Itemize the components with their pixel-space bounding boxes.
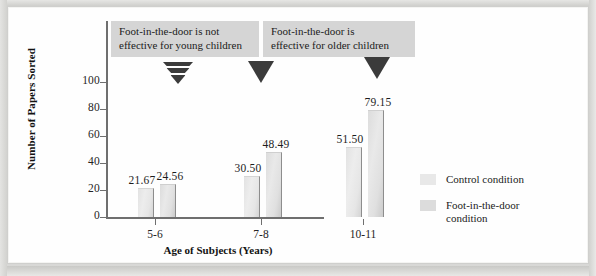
y-tick-label-80: 80 [64, 101, 100, 113]
y-tick-20 [100, 190, 106, 191]
x-tick-label-10-11: 10-11 [328, 228, 398, 240]
bar-chart: 0 20 40 60 80 100 Number of Papers Sorte… [8, 7, 590, 265]
x-tick-7-8 [261, 219, 262, 225]
not-effective-callout-line2: effective for young children [119, 39, 252, 53]
x-tick-label-5-6: 5-6 [120, 228, 190, 240]
legend-label-fitd: Foot-in-the-door condition [446, 199, 576, 226]
legend-item-fitd: Foot-in-the-door condition [420, 199, 576, 226]
y-tick-label-0: 0 [64, 209, 100, 221]
legend-item-control: Control condition [420, 173, 576, 187]
x-tick-label-7-8: 7-8 [226, 228, 296, 240]
y-tick-label-20: 20 [64, 182, 100, 194]
solid-triangle-down-icon-10-11 [364, 57, 390, 79]
figure-inner-panel: 0 20 40 60 80 100 Number of Papers Sorte… [7, 6, 589, 264]
bar-control-10-11 [346, 147, 362, 217]
effective-callout-line1: Foot-in-the-door is [271, 25, 408, 39]
y-tick-0 [100, 217, 106, 218]
frame-bevel-left [0, 0, 7, 276]
not-effective-callout: Foot-in-the-door is not effective for yo… [111, 21, 259, 57]
effective-callout-line2: effective for older children [271, 39, 408, 53]
y-tick-label-40: 40 [64, 155, 100, 167]
bar-value-fitd-7-8: 48.49 [246, 138, 306, 150]
bar-control-5-6 [138, 188, 154, 217]
figure-frame: 0 20 40 60 80 100 Number of Papers Sorte… [0, 0, 596, 276]
not-effective-callout-line1: Foot-in-the-door is not [119, 25, 252, 39]
bar-control-7-8 [244, 176, 260, 217]
legend-label-fitd-line1: Foot-in-the-door [446, 199, 576, 213]
y-tick-100 [100, 82, 106, 83]
y-tick-80 [100, 109, 106, 110]
split-triangle-down-icon [163, 62, 193, 88]
y-tick-label-60: 60 [64, 128, 100, 140]
y-axis-line [106, 21, 108, 219]
legend: Control condition Foot-in-the-door condi… [420, 173, 576, 238]
y-tick-40 [100, 163, 106, 164]
legend-swatch-fitd [420, 200, 436, 211]
solid-triangle-down-icon-7-8 [248, 61, 274, 83]
effective-callout: Foot-in-the-door is effective for older … [263, 21, 415, 57]
y-axis-title: Number of Papers Sorted [25, 24, 37, 194]
x-axis-line [106, 217, 324, 219]
bar-value-fitd-10-11: 79.15 [348, 96, 408, 108]
bar-value-fitd-5-6: 24.56 [140, 170, 200, 182]
legend-label-fitd-line2: condition [446, 212, 576, 226]
x-tick-10-11 [363, 219, 364, 225]
x-tick-5-6 [155, 219, 156, 225]
frame-bevel-bottom [0, 266, 596, 276]
x-axis-title: Age of Subjects (Years) [118, 244, 318, 256]
bar-fitd-10-11 [368, 110, 384, 217]
frame-bevel-right [589, 0, 596, 276]
bar-fitd-5-6 [160, 184, 176, 217]
legend-label-control: Control condition [446, 173, 576, 187]
bar-fitd-7-8 [266, 152, 282, 217]
legend-label-control-line1: Control condition [446, 173, 576, 187]
y-tick-60 [100, 136, 106, 137]
legend-swatch-control [420, 174, 436, 185]
y-tick-label-100: 100 [64, 74, 100, 86]
